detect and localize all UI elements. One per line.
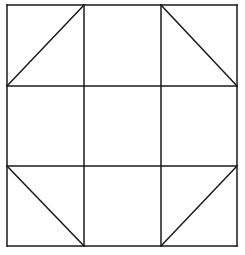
diagonal-top-left xyxy=(7,5,84,86)
grid-lines xyxy=(7,5,237,246)
diagonal-bottom-right xyxy=(161,166,237,246)
diagonal-bottom-left xyxy=(7,166,84,246)
grid-diagram xyxy=(0,0,245,255)
diagonal-lines xyxy=(7,5,237,246)
diagonal-top-right xyxy=(161,5,237,86)
